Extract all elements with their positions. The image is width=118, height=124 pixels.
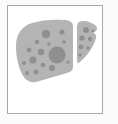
liver-spot-small-3 (35, 40, 39, 44)
liver-spot-small-19 (86, 46, 90, 50)
image-frame (7, 5, 103, 114)
liver-shape-group (16, 20, 97, 83)
thumbnail-canvas (0, 0, 118, 124)
liver-spot-small-17 (88, 37, 92, 41)
liver-spot-small-10 (34, 70, 39, 75)
liver-spot-large-0 (49, 47, 66, 64)
liver-illustration (8, 6, 104, 115)
liver-spot-small-7 (22, 61, 26, 65)
liver-spot-small-18 (79, 45, 84, 50)
liver-spot-small-20 (78, 53, 81, 56)
liver-spot-small-21 (92, 30, 95, 33)
liver-spot-medium-1 (42, 30, 50, 38)
liver-spot-medium-15 (83, 27, 89, 33)
liver-spot-small-2 (59, 29, 64, 34)
liver-spot-small-16 (79, 35, 84, 40)
liver-spot-medium-6 (29, 56, 36, 63)
liver-spot-small-4 (27, 48, 32, 53)
liver-spot-small-11 (25, 71, 29, 75)
liver-left-lobe (16, 20, 73, 83)
liver-spot-small-14 (47, 42, 50, 45)
liver-spot-small-13 (66, 60, 69, 63)
liver-spot-small-12 (62, 40, 66, 44)
liver-icon (8, 6, 104, 115)
liver-spot-medium-5 (38, 49, 44, 55)
liver-spot-medium-9 (49, 65, 55, 71)
liver-spot-small-8 (41, 63, 46, 68)
